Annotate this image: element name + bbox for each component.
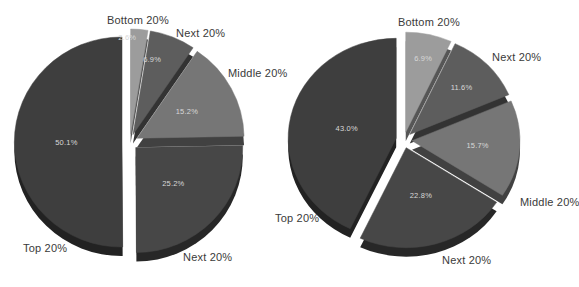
percent-label-left-4: 50.1% — [55, 138, 77, 147]
pie-chart-left: 2.6%6.9%15.2%25.2%50.1% — [14, 29, 244, 262]
pie-chart-right: 6.9%11.6%15.7%22.8%43.0% — [288, 32, 520, 257]
percent-label-left-2: 15.2% — [176, 107, 198, 116]
category-label-right-bottom-20-0: Bottom 20% — [398, 16, 460, 28]
category-label-left-next-20-3: Next 20% — [183, 251, 232, 263]
percent-label-right-2: 15.7% — [466, 141, 488, 150]
category-label-right-top-20-4: Top 20% — [275, 212, 319, 224]
category-label-left-middle-20-2: Middle 20% — [228, 67, 287, 79]
category-label-right-middle-20-2: Middle 20% — [520, 196, 579, 208]
percent-label-left-0: 2.6% — [118, 33, 136, 42]
percent-label-right-4: 43.0% — [336, 124, 358, 133]
category-label-left-top-20-4: Top 20% — [23, 242, 67, 254]
percent-label-left-1: 6.9% — [143, 55, 161, 64]
percent-label-left-3: 25.2% — [162, 179, 184, 188]
percent-label-right-3: 22.8% — [410, 191, 432, 200]
percent-label-right-0: 6.9% — [414, 54, 432, 63]
category-label-right-next-20-3: Next 20% — [442, 254, 491, 266]
percent-label-right-1: 11.6% — [451, 83, 473, 92]
category-label-left-bottom-20-0: Bottom 20% — [107, 14, 169, 26]
pie-slice-left-3-next-20 — [136, 146, 243, 253]
category-label-left-next-20-1: Next 20% — [176, 27, 225, 39]
category-label-right-next-20-1: Next 20% — [492, 51, 541, 63]
